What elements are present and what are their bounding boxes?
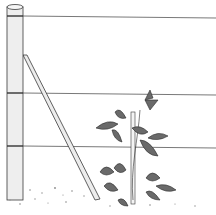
- illustration-canvas: [0, 0, 216, 215]
- plant: [96, 90, 176, 206]
- trellis-wires: [23, 16, 216, 148]
- brace-post: [23, 55, 100, 200]
- fence-illustration: [0, 0, 216, 215]
- fence-post: [7, 5, 23, 201]
